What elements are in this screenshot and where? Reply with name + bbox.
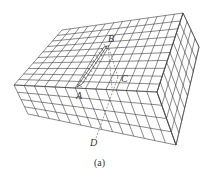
block-diagram: B C A D (a) xyxy=(0,0,202,180)
caption: (a) xyxy=(94,157,105,169)
label-d: D xyxy=(89,137,98,148)
label-b: B xyxy=(108,33,114,44)
fault-plane xyxy=(77,44,107,87)
label-a: A xyxy=(75,90,83,101)
grid-block xyxy=(14,13,199,145)
label-c: C xyxy=(121,73,128,84)
